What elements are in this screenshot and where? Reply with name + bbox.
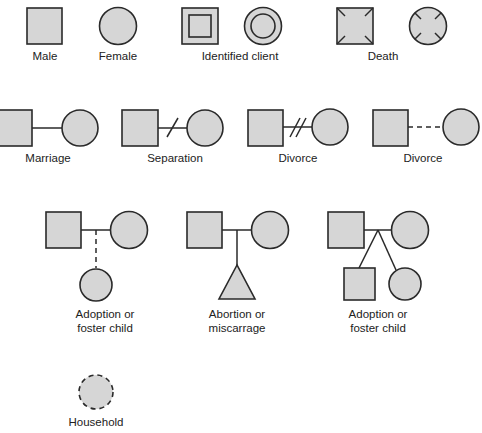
male-square-icon: [27, 8, 62, 44]
label-separation: Separation: [147, 152, 203, 164]
symbol-female: Female: [99, 8, 137, 63]
parent-circle-icon: [252, 212, 289, 249]
divorce-dashed-circle-icon: [443, 109, 479, 145]
label-female: Female: [99, 50, 137, 62]
symbol-identified-client: Identified client: [182, 8, 282, 63]
parent-circle-icon: [111, 212, 148, 249]
adopted-child-circle-icon: [389, 268, 421, 300]
symbol-marriage: Marriage: [0, 110, 98, 164]
abortion-triangle-icon: [219, 265, 255, 299]
symbol-divorce-dashed: Divorce: [373, 109, 479, 164]
label-abortion-line1: Abortion or: [209, 308, 265, 320]
symbol-adoption-branch: Adoption or foster child: [328, 212, 429, 335]
label-adoption-2-line1: Adoption or: [349, 308, 408, 320]
identified-client-inner-square-icon: [189, 15, 211, 37]
marriage-square-icon: [0, 110, 32, 146]
label-household: Household: [69, 416, 124, 428]
parent-square-icon: [46, 212, 81, 248]
label-adoption-2-line2: foster child: [350, 322, 406, 334]
label-death: Death: [368, 50, 399, 62]
label-identified-client: Identified client: [202, 50, 280, 62]
divorce-circle-icon: [312, 109, 348, 145]
divorce-square-icon: [248, 110, 283, 146]
parent-square-icon: [328, 212, 364, 248]
symbol-death: Death: [337, 8, 447, 63]
symbol-male: Male: [27, 8, 62, 62]
separation-square-icon: [122, 110, 158, 146]
parent-square-icon: [187, 212, 222, 248]
divorce-dashed-square-icon: [373, 110, 408, 146]
genogram-legend: Male Female Identified client Death Marr…: [0, 0, 482, 433]
female-circle-icon: [100, 8, 137, 45]
symbol-household: Household: [69, 375, 124, 428]
label-marriage: Marriage: [25, 152, 70, 164]
label-adoption-1-line1: Adoption or: [76, 308, 135, 320]
symbol-abortion: Abortion or miscarrage: [187, 212, 289, 335]
marriage-circle-icon: [62, 110, 98, 146]
label-abortion-line2: miscarrage: [209, 322, 266, 334]
adopted-child-square-icon: [344, 268, 375, 300]
separation-circle-icon: [187, 110, 223, 146]
adopted-child-circle-icon: [80, 269, 112, 301]
label-adoption-1-line2: foster child: [77, 322, 133, 334]
label-male: Male: [33, 50, 58, 62]
identified-client-inner-circle-icon: [251, 14, 275, 38]
household-dashed-circle-icon: [79, 375, 113, 409]
symbol-divorce-slashes: Divorce: [248, 109, 348, 164]
label-divorce-1: Divorce: [279, 152, 318, 164]
parent-circle-icon: [392, 212, 429, 249]
symbol-adoption-dashed: Adoption or foster child: [46, 212, 148, 335]
label-divorce-2: Divorce: [404, 152, 443, 164]
symbol-separation: Separation: [122, 110, 223, 164]
